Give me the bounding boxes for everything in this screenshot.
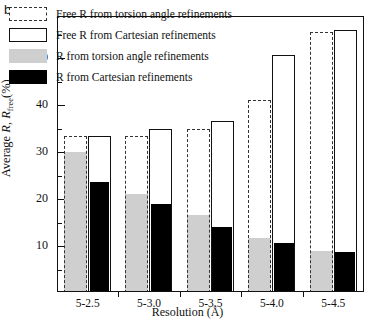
- y-axis-title-symbol-r: R: [0, 125, 13, 133]
- gray-fill-swatch: [9, 49, 47, 63]
- bar-free-r-torsion-5-2.5: [64, 136, 87, 292]
- x-tick: [241, 292, 242, 297]
- bar-free-r-torsion-5-3.5: [187, 129, 210, 293]
- legend-item: Free R from Cartesian refinements: [9, 25, 232, 44]
- bar-r-cartesian-5-3.0: [151, 204, 171, 292]
- dashed-outline-swatch: [9, 7, 47, 21]
- bar-r-cartesian-5-2.5: [90, 182, 110, 292]
- legend-item: R from torsion angle refinements: [9, 46, 232, 65]
- y-tick-label: 10: [36, 239, 48, 251]
- y-tick-label: 40: [36, 98, 48, 110]
- x-tick: [118, 292, 119, 297]
- y-tick-minor: [58, 270, 62, 271]
- bar-chart-figure: 1020304050 Average R, Rfree(%) 5-2.55-3.…: [0, 0, 375, 320]
- y-axis-title-subscript: free: [5, 98, 15, 111]
- bar-r-cartesian-5-4.0: [274, 243, 294, 292]
- y-tick-minor: [58, 223, 62, 224]
- bar-r-cartesian-5-4.5: [335, 252, 355, 292]
- legend-label: Free R from Cartesian refinements: [56, 29, 216, 41]
- y-tick-label: 30: [36, 145, 48, 157]
- y-tick-label: 20: [36, 192, 48, 204]
- legend-label: Free R from torsion angle refinements: [56, 8, 232, 20]
- bar-free-r-torsion-5-4.0: [248, 100, 271, 292]
- legend-label: R from torsion angle refinements: [56, 50, 209, 62]
- bar-r-cartesian-5-3.5: [212, 227, 232, 292]
- y-tick-major: [58, 105, 65, 106]
- black-fill-swatch: [9, 70, 47, 84]
- y-axis-title-symbol-rfree: R: [0, 111, 13, 119]
- chart-legend: Free R from torsion angle refinementsFre…: [9, 4, 232, 88]
- y-axis-title-sep: ,: [0, 119, 13, 125]
- open-outline-swatch: [9, 28, 47, 42]
- y-axis-title-prefix: Average: [0, 133, 13, 178]
- y-tick-minor: [58, 129, 62, 130]
- legend-item: Free R from torsion angle refinements: [9, 4, 232, 23]
- legend-item: R from Cartesian refinements: [9, 67, 232, 86]
- legend-label: R from Cartesian refinements: [56, 71, 192, 83]
- x-tick: [180, 292, 181, 297]
- x-axis-title: Resolution (Å): [0, 305, 375, 320]
- bar-free-r-torsion-5-4.5: [310, 32, 333, 292]
- bar-free-r-torsion-5-3.0: [125, 136, 148, 292]
- y-tick-minor: [58, 176, 62, 177]
- x-tick: [303, 292, 304, 297]
